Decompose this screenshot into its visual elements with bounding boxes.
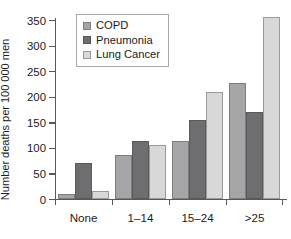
y-axis-tick: 250	[49, 71, 55, 72]
bar	[92, 191, 109, 199]
x-axis-label: 15–24	[181, 211, 213, 224]
x-axis-label: >25	[245, 211, 265, 224]
legend-label: Lung Cancer	[96, 49, 160, 60]
chart-legend: COPDPneumoniaLung Cancer	[76, 14, 169, 67]
x-axis-tick	[169, 199, 170, 205]
bar	[263, 17, 280, 199]
legend-swatch-icon	[83, 36, 91, 44]
y-axis-title: Number deaths per 100 000 men	[0, 0, 22, 239]
y-axis-tick-label: 150	[27, 117, 46, 129]
y-axis-tick-label: 250	[27, 66, 46, 78]
y-axis-tick-label: 300	[27, 40, 46, 52]
legend-swatch-icon	[83, 51, 91, 59]
y-axis-tick: 100	[49, 148, 55, 149]
x-axis-label: None	[70, 211, 98, 224]
y-axis-tick-label: 200	[27, 91, 46, 103]
x-axis-tick	[112, 199, 113, 205]
x-axis-line	[49, 199, 287, 200]
x-axis-tick	[55, 199, 56, 205]
legend-item: COPD	[83, 20, 160, 31]
legend-swatch-icon	[83, 22, 91, 30]
bar	[149, 145, 166, 199]
bar	[189, 120, 206, 199]
bar	[206, 92, 223, 199]
legend-item: Lung Cancer	[83, 49, 160, 60]
y-axis-tick: 350	[49, 20, 55, 21]
bar	[132, 141, 149, 199]
y-axis-tick: 200	[49, 97, 55, 98]
legend-label: COPD	[96, 20, 128, 31]
y-axis-tick: 50	[49, 173, 55, 174]
y-axis-tick-label: 350	[27, 15, 46, 27]
legend-label: Pneumonia	[96, 35, 153, 46]
bar	[246, 112, 263, 199]
bar-chart: Number deaths per 100 000 men 0501001502…	[0, 0, 291, 239]
y-axis-tick-label: 100	[27, 142, 46, 154]
y-axis-tick-label: 0	[40, 194, 46, 206]
y-axis-tick: 300	[49, 46, 55, 47]
legend-item: Pneumonia	[83, 35, 160, 46]
bar	[229, 83, 246, 199]
bar	[75, 163, 92, 199]
bar	[115, 155, 132, 199]
x-axis-tick	[226, 199, 227, 205]
x-axis-tick	[282, 199, 283, 205]
y-axis-tick: 150	[49, 122, 55, 123]
y-axis-tick-label: 50	[33, 168, 46, 180]
bar	[58, 194, 75, 199]
x-axis-label: 1–14	[128, 211, 154, 224]
bar	[172, 141, 189, 199]
